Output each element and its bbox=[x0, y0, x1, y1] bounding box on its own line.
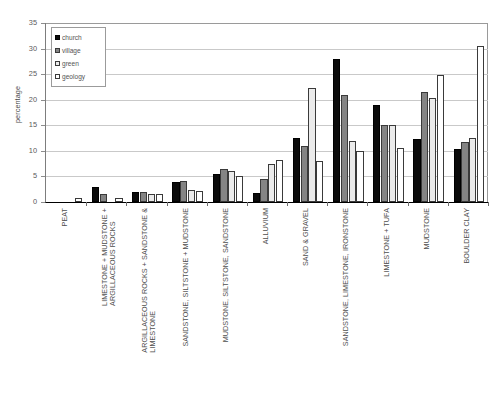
bar-church bbox=[293, 138, 300, 202]
x-tick-mark bbox=[247, 202, 248, 206]
bar-church bbox=[92, 187, 99, 202]
bar-group bbox=[333, 23, 364, 202]
x-category-label: SANDSTONE, SILTSTONE + MUDSTONE bbox=[182, 208, 190, 347]
y-tick-label: 20 bbox=[15, 96, 37, 104]
legend-swatch-geology bbox=[55, 74, 60, 79]
y-tick-label: 35 bbox=[15, 19, 37, 27]
bar-village bbox=[220, 169, 227, 202]
bar-geology bbox=[115, 198, 122, 202]
bar-group bbox=[172, 23, 203, 202]
x-category-label-line1: SANDSTONE, SILTSTONE + MUDSTONE bbox=[181, 208, 190, 347]
x-category-label-line1: LIMESTONE + TUFA bbox=[382, 208, 391, 277]
x-category-label: LIMESTONE + MUDSTONE +ARGILLACEOUS ROCKS bbox=[101, 208, 118, 306]
x-category-label-line1: MUDSTONE bbox=[422, 208, 431, 249]
bar-geology bbox=[316, 161, 323, 202]
y-tick-label: 10 bbox=[15, 147, 37, 155]
bar-village bbox=[180, 181, 187, 202]
bar-group bbox=[213, 23, 244, 202]
x-category-label-line1: ALLUVIUM bbox=[261, 208, 270, 244]
legend-swatch-green bbox=[55, 61, 60, 66]
x-category-label: SAND & GRAVEL bbox=[302, 208, 310, 266]
bar-church bbox=[373, 105, 380, 202]
bar-green bbox=[469, 138, 476, 202]
bar-group bbox=[373, 23, 404, 202]
x-tick-mark bbox=[126, 202, 127, 206]
bar-church bbox=[213, 174, 220, 202]
bar-green bbox=[228, 171, 235, 202]
chart-legend: churchvillagegreengeology bbox=[51, 27, 106, 87]
x-category-label-line2: LIMESTONE bbox=[150, 208, 158, 353]
plot-area bbox=[45, 23, 488, 203]
x-tick-mark bbox=[327, 202, 328, 206]
x-tick-mark bbox=[367, 202, 368, 206]
bar-group bbox=[293, 23, 324, 202]
legend-swatch-village bbox=[55, 48, 60, 53]
legend-label: church bbox=[62, 34, 82, 42]
x-category-label: ARGILLACEOUS ROCKS + SANDSTONE &LIMESTON… bbox=[141, 208, 158, 353]
x-category-label: ALLUVIUM bbox=[262, 208, 270, 244]
bar-village bbox=[461, 142, 468, 202]
bar-village bbox=[381, 125, 388, 202]
y-tick-label: 0 bbox=[15, 198, 37, 206]
bar-church bbox=[172, 182, 179, 202]
bar-church bbox=[132, 192, 139, 202]
plot-right-border bbox=[487, 23, 488, 202]
x-category-label: BOULDER CLAY bbox=[463, 208, 471, 264]
bar-green bbox=[389, 125, 396, 202]
bar-village bbox=[421, 92, 428, 202]
bar-group bbox=[413, 23, 444, 202]
x-category-label: MUDSTONE, SILTSTONE, SANDSTONE bbox=[222, 208, 230, 342]
legend-item-geology: geology bbox=[55, 70, 101, 83]
bar-church bbox=[413, 139, 420, 202]
bar-geology bbox=[156, 194, 163, 202]
bar-church bbox=[253, 193, 260, 202]
bar-village bbox=[100, 194, 107, 202]
x-tick-mark bbox=[207, 202, 208, 206]
legend-label: village bbox=[62, 47, 81, 55]
bar-green bbox=[308, 88, 315, 202]
bar-group bbox=[454, 23, 485, 202]
bar-group bbox=[253, 23, 284, 202]
bar-village bbox=[140, 192, 147, 202]
y-tick-label: 30 bbox=[15, 45, 37, 53]
y-tick-label: 5 bbox=[15, 172, 37, 180]
bar-geology bbox=[276, 160, 283, 202]
legend-swatch-church bbox=[55, 35, 60, 40]
bar-green bbox=[148, 194, 155, 202]
x-tick-mark bbox=[448, 202, 449, 206]
x-category-label: PEAT bbox=[61, 208, 69, 226]
x-tick-mark bbox=[488, 202, 489, 206]
legend-label: green bbox=[62, 60, 79, 68]
x-tick-mark bbox=[408, 202, 409, 206]
bar-geology bbox=[236, 176, 243, 202]
legend-item-village: village bbox=[55, 44, 101, 57]
x-category-label-line1: SANDSTONE, LIMESTONE, IRONSTONE bbox=[341, 208, 350, 346]
bar-chart: percentage 05101520253035 churchvillageg… bbox=[0, 0, 499, 394]
bar-geology bbox=[196, 191, 203, 202]
x-category-label-line1: SAND & GRAVEL bbox=[301, 208, 310, 266]
y-tick-label: 15 bbox=[15, 121, 37, 129]
bar-geology bbox=[437, 75, 444, 202]
legend-label: geology bbox=[62, 73, 85, 81]
x-tick-mark bbox=[167, 202, 168, 206]
legend-item-church: church bbox=[55, 31, 101, 44]
bar-geology bbox=[75, 198, 82, 202]
bar-green bbox=[429, 98, 436, 202]
bar-geology bbox=[356, 151, 363, 202]
x-category-label: MUDSTONE bbox=[423, 208, 431, 249]
bar-green bbox=[268, 164, 275, 202]
x-tick-mark bbox=[287, 202, 288, 206]
bar-green bbox=[349, 141, 356, 202]
bar-village bbox=[301, 146, 308, 202]
bar-village bbox=[341, 95, 348, 202]
x-tick-mark bbox=[86, 202, 87, 206]
x-category-label: LIMESTONE + TUFA bbox=[383, 208, 391, 277]
legend-item-green: green bbox=[55, 57, 101, 70]
x-category-label-line1: MUDSTONE, SILTSTONE, SANDSTONE bbox=[221, 208, 230, 342]
x-category-label-line1: BOULDER CLAY bbox=[462, 208, 471, 264]
bar-church bbox=[333, 59, 340, 202]
bar-geology bbox=[397, 148, 404, 202]
x-category-label: SANDSTONE, LIMESTONE, IRONSTONE bbox=[342, 208, 350, 346]
bar-group bbox=[132, 23, 163, 202]
x-category-label-line1: PEAT bbox=[60, 208, 69, 226]
